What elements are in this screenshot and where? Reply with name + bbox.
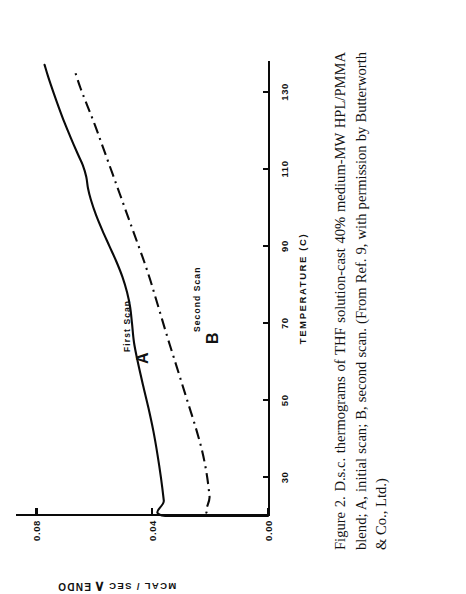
x-tick — [263, 399, 270, 401]
x-tick — [263, 322, 270, 324]
y-tick — [267, 508, 269, 516]
curve-b-sublabel: Second Scan — [192, 267, 202, 332]
y-tick — [151, 508, 153, 516]
x-tick-label: 50 — [279, 394, 290, 406]
x-tick — [263, 476, 270, 478]
curve-second-scan — [74, 69, 268, 516]
curves-svg — [14, 50, 270, 550]
curve-b-label: B — [204, 332, 222, 344]
endo-direction-marker: ∧ ENDO — [56, 579, 104, 594]
plot-area: 30507090110130 0.000.040.08 A First Scan… — [14, 50, 270, 550]
y-tick — [35, 508, 37, 516]
endo-arrow-icon: ∧ — [92, 580, 104, 594]
figure-page: 30507090110130 0.000.040.08 A First Scan… — [0, 0, 466, 594]
figure-caption: Figure 2. D.s.c. thermograms of THF solu… — [330, 52, 392, 550]
x-axis-title: TEMPERATURE (C) — [297, 61, 308, 516]
x-tick-label: 30 — [279, 472, 290, 484]
y-tick-label: 0.08 — [31, 520, 42, 541]
x-tick — [263, 91, 270, 93]
curve-a-sublabel: First Scan — [122, 300, 132, 352]
x-tick-label: 70 — [279, 317, 290, 329]
x-tick — [263, 168, 270, 170]
x-tick-label: 110 — [279, 160, 290, 177]
x-tick-label: 130 — [279, 83, 290, 101]
endo-label: ENDO — [56, 581, 90, 592]
x-tick — [263, 245, 270, 247]
y-axis-title: MCAL / SEC — [108, 581, 177, 592]
x-tick-label: 90 — [279, 240, 290, 252]
curve-first-scan — [45, 65, 268, 516]
curve-a-label: A — [134, 352, 152, 364]
dsc-thermogram-figure: 30507090110130 0.000.040.08 A First Scan… — [14, 50, 270, 550]
y-tick-label: 0.00 — [263, 520, 274, 541]
y-tick-label: 0.04 — [147, 520, 158, 541]
